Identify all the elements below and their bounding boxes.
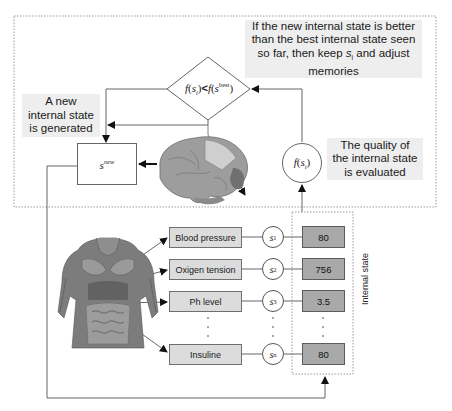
row-label: Ph level (189, 297, 221, 307)
new-state-sup: new (104, 158, 114, 165)
state-sub: n (273, 351, 276, 358)
state-sub: 3 (273, 298, 276, 305)
new-state-symbol: snew (100, 158, 115, 171)
note-keep-best: If the new internal state is better than… (245, 20, 422, 78)
torso-image (58, 238, 158, 348)
row-label: Insuline (190, 350, 221, 360)
note-keep-best-line4: memories (308, 65, 358, 77)
note-quality-line3: is evaluated (344, 166, 405, 178)
row-value: 756 (316, 264, 332, 275)
note-keep-best-line3-post: and adjust (353, 47, 409, 59)
variable-label-insuline: Insuline (169, 344, 242, 365)
note-keep-best-line1: If the new internal state is better (252, 20, 415, 32)
note-new-state-line3: is generated (29, 122, 92, 134)
variable-label-blood-pressure: Blood pressure (169, 227, 242, 248)
row-label: Oxigen tension (175, 265, 235, 275)
note-new-state-line1: A new (45, 95, 76, 107)
note-quality-evaluated: The quality of the internal state is eva… (327, 138, 423, 180)
state-circle-s2: s2 (262, 258, 284, 280)
value-box-sn: 80 (302, 343, 345, 365)
note-new-state-line2: internal state (28, 109, 94, 121)
note-keep-best-line2: than the best internal state seen (252, 33, 416, 45)
state-circle-s3: s3 (262, 290, 284, 312)
value-box-s3: 3.5 (302, 290, 345, 312)
decision-condition: f(si)<f(sbest) (172, 81, 246, 96)
brain-image (160, 137, 248, 204)
state-circle-sn: sn (262, 343, 284, 365)
row-value: 80 (318, 349, 329, 360)
decision-rhs-sup: best (219, 81, 229, 88)
state-circle-s1: s1 (262, 226, 284, 248)
state-sub: 2 (273, 266, 276, 273)
evaluation-symbol: f(si) (294, 156, 311, 170)
note-new-state: A new internal state is generated (22, 94, 100, 137)
value-box-s2: 756 (302, 258, 345, 280)
state-sub: 1 (273, 234, 276, 241)
row-label: Blood pressure (175, 233, 236, 243)
internal-state-label: Internal state (360, 244, 370, 314)
variable-label-oxigen-tension: Oxigen tension (169, 259, 242, 280)
value-box-s1: 80 (302, 226, 345, 248)
evaluation-circle: f(si) (282, 143, 322, 183)
variable-label-ph-level: Ph level (169, 291, 242, 312)
row-value: 3.5 (317, 296, 330, 307)
note-keep-best-line3-pre: so far, then keep (258, 47, 346, 59)
new-state-box: snew (77, 143, 137, 185)
row-value: 80 (318, 232, 329, 243)
note-quality-line2: the internal state (332, 152, 417, 164)
note-quality-line1: The quality of (340, 139, 409, 151)
